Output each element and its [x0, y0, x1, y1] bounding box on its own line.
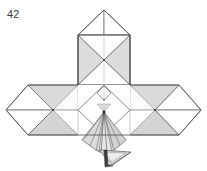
left-wing-group — [6, 85, 78, 135]
right-wing-node — [154, 109, 156, 111]
origami-figure: Origami folding diagram step 42 — [0, 0, 207, 171]
step-number-label: 42 — [7, 8, 20, 20]
top-roof-group — [78, 10, 130, 35]
beak-apex-vertex — [103, 111, 106, 114]
upper-block-center-vertex — [103, 59, 105, 61]
bottom-flap-group — [99, 150, 131, 167]
right-wing-group — [130, 85, 201, 135]
left-wing-node — [52, 109, 54, 111]
center-notch-vertex — [103, 99, 105, 101]
origami-diagram: Origami folding diagram step 42 — [0, 0, 207, 171]
upper-block-group — [78, 35, 130, 85]
